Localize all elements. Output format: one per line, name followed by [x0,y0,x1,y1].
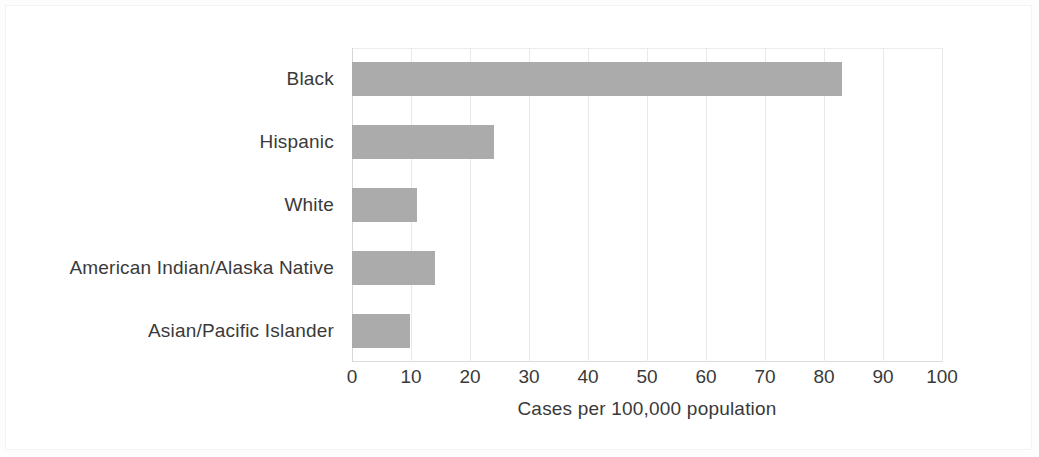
bar-row [352,125,494,159]
category-label: American Indian/Alaska Native [0,251,344,285]
bar [352,314,410,348]
x-tick-label: 20 [459,366,480,388]
x-tick-label: 50 [636,366,657,388]
category-axis-labels: BlackHispanicWhiteAmerican Indian/Alaska… [0,48,344,362]
gridline-100 [942,48,943,362]
category-label: Black [0,62,344,96]
bar [352,188,417,222]
x-tick-label: 10 [400,366,421,388]
x-tick-label: 0 [347,366,358,388]
bar-row [352,251,435,285]
x-tick-label: 100 [926,366,958,388]
x-tick-label: 90 [872,366,893,388]
x-axis-title: Cases per 100,000 population [352,398,942,420]
x-tick-label: 40 [577,366,598,388]
bar-chart: BlackHispanicWhiteAmerican Indian/Alaska… [0,0,1039,457]
x-tick-label: 30 [518,366,539,388]
x-axis-tick-labels: 0102030405060708090100 [352,366,942,394]
bar-row [352,314,410,348]
x-tick-label: 60 [695,366,716,388]
bar [352,251,435,285]
x-tick-label: 80 [813,366,834,388]
category-label: White [0,188,344,222]
figure-container: BlackHispanicWhiteAmerican Indian/Alaska… [0,0,1039,457]
x-tick-label: 70 [754,366,775,388]
bar-series [352,48,942,362]
bar [352,125,494,159]
bar [352,62,842,96]
bar-row [352,62,842,96]
category-label: Asian/Pacific Islander [0,314,344,348]
bar-row [352,188,417,222]
plot-area [352,48,942,362]
category-label: Hispanic [0,125,344,159]
